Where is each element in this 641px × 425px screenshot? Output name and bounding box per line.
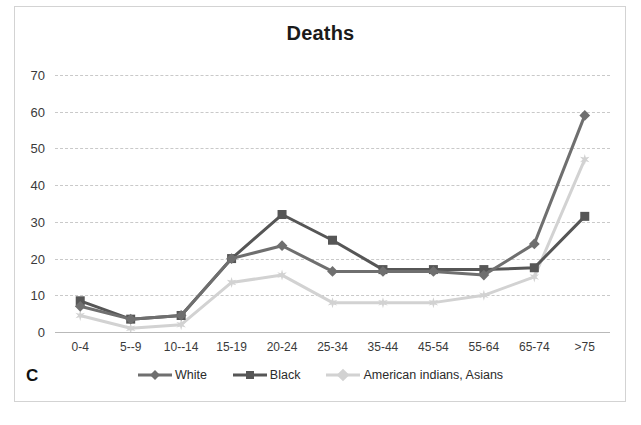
x-axis-tick-label: 20-24: [267, 340, 298, 354]
x-axis-tick-label: 10--14: [164, 340, 199, 354]
legend-label: American indians, Asians: [363, 368, 503, 382]
legend-label: Black: [270, 368, 301, 382]
x-axis-tick-label: 65-74: [519, 340, 550, 354]
x-axis-tick-label: 0-4: [72, 340, 89, 354]
x-axis-tick-label: 15-19: [216, 340, 247, 354]
y-axis-tick-label: 10: [31, 288, 45, 303]
data-point-marker: [327, 266, 338, 277]
series-svg: [55, 75, 610, 332]
data-point-marker: [278, 210, 287, 219]
legend-swatch-icon: [138, 369, 172, 381]
x-axis-tick-label: 5--9: [120, 340, 141, 354]
data-point-marker: [328, 236, 337, 245]
legend-item[interactable]: White: [138, 368, 207, 382]
x-axis-tick-labels: 0-45--910--1415-1920-2425-3435-4445-5455…: [55, 340, 610, 360]
x-axis-tick-label: 35-44: [368, 340, 399, 354]
x-axis-tick-label: 55-64: [469, 340, 500, 354]
x-axis-tick-label: 45-54: [418, 340, 449, 354]
y-axis-tick-label: 40: [31, 178, 45, 193]
data-point-marker: [580, 154, 590, 165]
series-line-white: [80, 115, 585, 319]
plot-area: 010203040506070: [55, 75, 610, 332]
x-axis-tick-label: 25-34: [317, 340, 348, 354]
chart-legend: WhiteBlackAmerican indians, Asians: [0, 368, 641, 382]
panel-label: C: [26, 366, 38, 386]
x-axis-line: [55, 332, 610, 333]
y-axis-tick-label: 60: [31, 104, 45, 119]
chart-title: Deaths: [0, 22, 641, 45]
legend-swatch-icon: [233, 369, 267, 381]
chart-figure: Deaths 010203040506070 0-45--910--1415-1…: [0, 0, 641, 425]
x-axis-tick-label: >75: [575, 340, 595, 354]
y-axis-tick-label: 0: [38, 325, 45, 340]
data-point-marker: [277, 240, 288, 251]
data-point-marker: [530, 263, 539, 272]
y-axis-tick-label: 50: [31, 141, 45, 156]
legend-swatch-icon: [326, 369, 360, 381]
legend-item[interactable]: American indians, Asians: [326, 368, 503, 382]
data-point-marker: [580, 212, 589, 221]
legend-item[interactable]: Black: [233, 368, 301, 382]
y-axis-tick-label: 70: [31, 68, 45, 83]
y-axis-tick-label: 20: [31, 251, 45, 266]
legend-label: White: [175, 368, 207, 382]
y-axis-tick-label: 30: [31, 214, 45, 229]
data-point-marker: [579, 110, 590, 121]
